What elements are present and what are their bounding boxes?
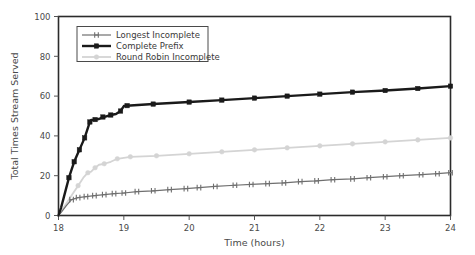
data-marker (86, 170, 91, 175)
data-marker (94, 55, 99, 60)
data-marker (383, 140, 388, 145)
data-marker (416, 138, 421, 143)
data-marker (101, 115, 105, 119)
data-marker (187, 152, 192, 157)
x-tick-label: 21 (249, 223, 260, 233)
x-tick-label: 23 (380, 223, 391, 233)
y-axis-title: Total Times Stream Served (9, 52, 20, 180)
legend: Longest IncompleteComplete PrefixRound R… (77, 27, 220, 63)
x-tick-label: 18 (53, 223, 64, 233)
data-marker (383, 88, 387, 92)
x-tick-label: 20 (184, 223, 195, 233)
data-marker (318, 144, 323, 149)
y-tick-label: 100 (34, 12, 50, 22)
data-marker (72, 160, 76, 164)
data-marker (128, 154, 133, 159)
data-marker (252, 96, 256, 100)
data-marker (115, 156, 120, 161)
chart-canvas: 18192021222324020406080100Time (hours)To… (0, 0, 475, 255)
data-marker (220, 98, 224, 102)
x-tick-label: 22 (314, 223, 325, 233)
y-tick-label: 80 (40, 52, 51, 62)
data-marker (93, 117, 97, 121)
data-marker (76, 183, 81, 188)
y-tick-label: 40 (40, 131, 51, 141)
series-2 (59, 136, 453, 216)
data-marker (448, 136, 453, 141)
data-marker (318, 92, 322, 96)
data-marker (350, 142, 355, 147)
data-marker (285, 94, 289, 98)
data-marker (285, 146, 290, 151)
data-marker (93, 165, 98, 170)
y-tick-label: 0 (45, 211, 50, 221)
data-marker (88, 120, 92, 124)
data-marker (82, 136, 86, 140)
series-line (59, 173, 451, 216)
data-marker (448, 84, 452, 88)
data-marker (416, 86, 420, 90)
data-marker (350, 90, 354, 94)
x-tick-label: 19 (118, 223, 129, 233)
data-marker (118, 109, 122, 113)
x-axis-title: Time (hours) (223, 237, 284, 248)
data-marker (125, 103, 129, 107)
data-marker (77, 148, 81, 152)
data-marker (109, 113, 113, 117)
data-marker (154, 154, 159, 159)
y-tick-label: 20 (40, 171, 51, 181)
series-0 (59, 170, 453, 216)
data-marker (151, 102, 155, 106)
data-marker (67, 175, 71, 179)
data-marker (252, 148, 257, 153)
data-marker (94, 44, 98, 48)
x-tick-label: 24 (445, 223, 456, 233)
data-marker (187, 100, 191, 104)
legend-label: Complete Prefix (116, 41, 184, 51)
legend-label: Longest Incomplete (116, 30, 200, 40)
data-marker (220, 150, 225, 155)
y-tick-label: 60 (40, 91, 51, 101)
data-marker (102, 161, 107, 166)
chart-figure: 18192021222324020406080100Time (hours)To… (0, 0, 475, 255)
legend-label: Round Robin Incomplete (116, 52, 220, 62)
